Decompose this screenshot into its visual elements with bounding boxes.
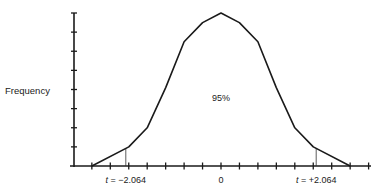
axes: [70, 13, 371, 167]
area-percent-label: 95%: [212, 93, 230, 103]
ticks: [71, 13, 369, 170]
distribution-curve: [92, 13, 350, 166]
curve-group: [92, 13, 350, 166]
y-axis-label: Frequency: [5, 85, 50, 96]
x-tick-label: 0: [218, 175, 223, 185]
tick-labels: t = −2.0640t = +2.064: [106, 175, 337, 185]
x-tick-label: t = −2.064: [106, 175, 147, 185]
x-tick-label: t = +2.064: [296, 175, 337, 185]
t-distribution-chart: Frequency t = −2.0640t = +2.064 95%: [0, 0, 384, 193]
annotations: 95%: [212, 93, 230, 103]
